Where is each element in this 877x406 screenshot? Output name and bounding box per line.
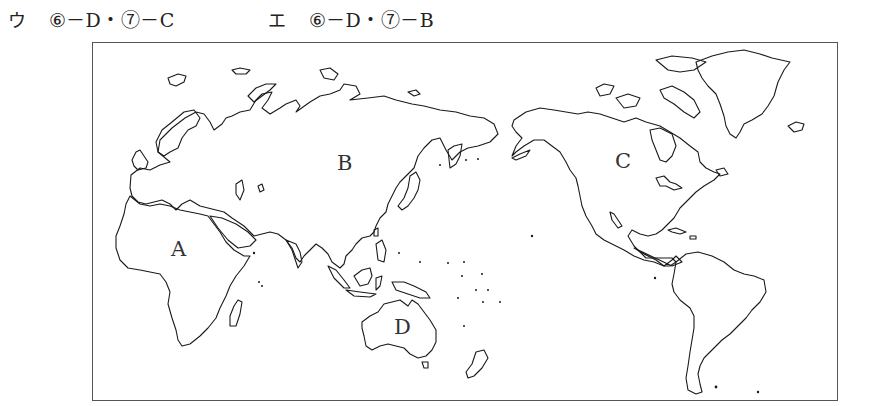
baffin-island-outline <box>660 86 700 118</box>
world-map <box>0 0 877 406</box>
island-dot <box>477 158 479 160</box>
arabia-outline <box>210 216 256 248</box>
new-zealand-outline <box>466 350 488 378</box>
victoria-island-outline <box>616 94 640 108</box>
caspian-sea-outline <box>236 180 244 200</box>
island-dot <box>447 262 449 264</box>
island-dot <box>253 252 255 254</box>
great-lakes-outline <box>656 176 682 190</box>
aleutian-islands-outline <box>512 150 530 160</box>
north-america-outline <box>512 108 720 266</box>
island-dot <box>419 261 421 263</box>
island-dot <box>499 301 501 303</box>
british-isles-outline <box>132 150 148 170</box>
island-dot <box>457 297 459 299</box>
iceland-outline <box>788 122 804 132</box>
island-dot <box>481 273 483 275</box>
greenland-outline <box>696 50 790 138</box>
island-dot <box>398 252 400 254</box>
region-label-d: D <box>394 317 411 338</box>
sulawesi-outline <box>376 276 382 290</box>
arctic-archipelago-outline <box>596 84 614 96</box>
region-label-c: C <box>615 151 631 172</box>
japan-outline <box>398 172 420 210</box>
island-dot <box>715 386 718 389</box>
island-dot <box>757 391 759 393</box>
tasmania-outline <box>422 362 428 368</box>
madagascar-outline <box>230 300 242 326</box>
hispaniola-outline <box>690 236 696 239</box>
island-dot <box>482 301 484 303</box>
taiwan-outline <box>374 228 378 236</box>
island-dot <box>531 235 533 237</box>
philippines-outline <box>376 240 386 262</box>
island-dot <box>439 164 441 166</box>
svalbard-outline <box>168 74 186 86</box>
baja-california-outline <box>610 212 622 228</box>
island-dot <box>463 325 465 327</box>
island-dot <box>475 289 477 291</box>
scandinavia-outline <box>156 110 200 156</box>
region-label-b: B <box>337 153 352 174</box>
island-dot <box>487 289 489 291</box>
borneo-outline <box>354 268 372 286</box>
severnaya-zemlya-outline <box>320 68 338 80</box>
island-dot <box>463 261 465 263</box>
island-dot <box>654 277 656 279</box>
south-america-outline <box>672 252 766 394</box>
sumatra-outline <box>328 266 350 288</box>
island-dot <box>465 159 467 161</box>
new-guinea-outline <box>392 282 430 298</box>
java-outline <box>346 290 376 297</box>
island-dot <box>261 285 263 287</box>
island-dot <box>461 275 463 277</box>
aral-sea-outline <box>258 184 264 192</box>
region-label-a: A <box>171 239 186 260</box>
island-dot <box>258 281 260 283</box>
small-islands <box>253 158 759 393</box>
newfoundland-outline <box>716 168 728 176</box>
ellesmere-island-outline <box>656 56 706 72</box>
cuba-outline <box>668 228 686 234</box>
franz-josef-outline <box>232 68 250 74</box>
new-siberian-islands-outline <box>408 90 420 96</box>
